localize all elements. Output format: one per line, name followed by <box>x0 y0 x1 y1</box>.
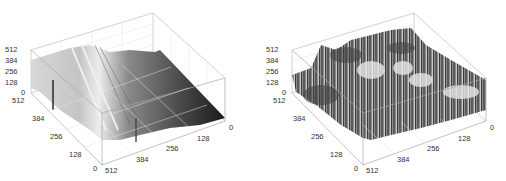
surface-plot-right-canvas <box>261 0 506 181</box>
surface-plot-right: 512 384 256 128 0 512 384 256 128 0 512 … <box>261 0 506 181</box>
x-tick: 512 <box>105 167 118 175</box>
x-tick: 384 <box>136 156 149 164</box>
y-tick: 0 <box>354 165 358 173</box>
y-tick: 0 <box>93 165 97 173</box>
x-tick: 256 <box>427 145 440 153</box>
z-tick: 512 <box>5 46 18 54</box>
y-tick: 256 <box>50 133 63 141</box>
x-tick: 384 <box>397 156 410 164</box>
y-tick: 512 <box>273 97 286 105</box>
x-tick: 256 <box>166 145 179 153</box>
z-tick: 256 <box>266 68 279 76</box>
z-tick: 128 <box>5 79 18 87</box>
surface-right <box>292 28 486 140</box>
y-tick: 128 <box>330 151 343 159</box>
x-tick: 128 <box>458 135 471 143</box>
y-tick: 384 <box>32 115 45 123</box>
y-tick: 256 <box>311 133 324 141</box>
y-tick: 384 <box>293 115 306 123</box>
x-tick: 512 <box>366 167 379 175</box>
x-tick: 0 <box>229 124 233 132</box>
z-tick: 128 <box>266 79 279 87</box>
z-tick: 384 <box>266 57 279 65</box>
x-tick: 128 <box>197 135 210 143</box>
surface-left <box>31 45 225 140</box>
z-tick: 256 <box>5 68 18 76</box>
surface-plot-left: 512 384 256 128 0 512 384 256 128 0 512 … <box>0 0 253 181</box>
y-tick: 512 <box>12 97 25 105</box>
y-tick: 128 <box>69 151 82 159</box>
z-tick: 512 <box>266 46 279 54</box>
z-tick: 384 <box>5 57 18 65</box>
surface-plot-left-canvas <box>0 0 253 181</box>
x-tick: 0 <box>490 124 494 132</box>
